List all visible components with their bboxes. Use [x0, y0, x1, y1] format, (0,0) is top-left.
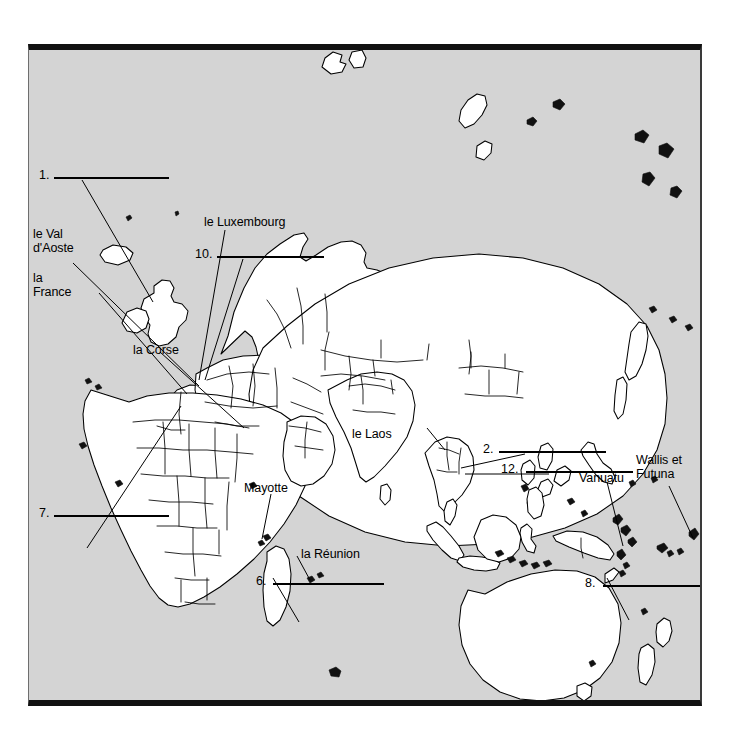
map-label-la-reunion: la Réunion: [301, 548, 360, 562]
clipped-header-text: [0, 0, 730, 4]
blank-number-6[interactable]: 6.: [256, 574, 266, 588]
blank-number-7[interactable]: 7.: [39, 506, 49, 520]
map-label-wallis-et-futuna: Wallis et Futuna: [636, 454, 682, 481]
map-label-vanuatu: Vanuatu: [579, 472, 624, 486]
map-frame: le Val d'Aoste la France le Luxembourg l…: [28, 44, 702, 706]
map-label-mayotte: Mayotte: [244, 482, 288, 496]
blank-number-10[interactable]: 10.: [195, 247, 212, 261]
blank-number-1[interactable]: 1.: [39, 168, 49, 182]
blank-number-2[interactable]: 2.: [483, 442, 493, 456]
map-label-le-luxembourg: le Luxembourg: [204, 216, 285, 230]
blank-number-12[interactable]: 12.: [501, 462, 518, 476]
map-label-la-corse: la Corse: [133, 344, 179, 358]
map-label-le-val-d-aoste: le Val d'Aoste: [33, 228, 74, 255]
worksheet-page: le Val d'Aoste la France le Luxembourg l…: [0, 0, 730, 741]
map-label-la-france: la France: [33, 272, 71, 299]
map-label-le-laos: le Laos: [352, 428, 392, 442]
world-map-graphic: [29, 50, 702, 706]
blank-number-8[interactable]: 8.: [585, 576, 595, 590]
